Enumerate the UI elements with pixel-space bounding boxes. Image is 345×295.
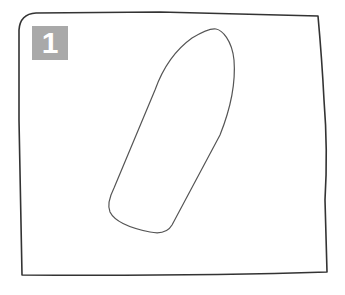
illustration-canvas: 1 (0, 0, 345, 295)
step-number-label: 1 (42, 26, 59, 59)
step-number-badge: 1 (32, 26, 68, 60)
boat-pattern-outline (109, 29, 235, 233)
